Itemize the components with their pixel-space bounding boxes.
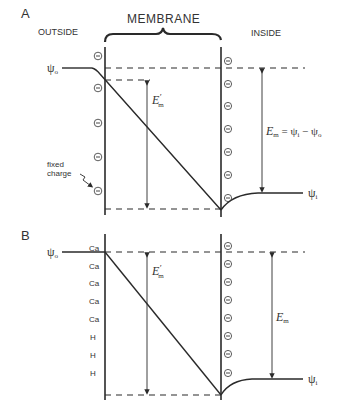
psi-o-label-b: ψo — [47, 245, 59, 260]
panel-a-letter: A — [21, 6, 30, 21]
ion-label: Ca — [89, 315, 100, 324]
ion-label: Ca — [89, 297, 100, 306]
ion-label: H — [90, 351, 96, 360]
fixed-charge-label-line2: charge — [47, 169, 72, 178]
psi-i-label-b: ψi — [308, 372, 318, 387]
panel-a: A OUTSIDE MEMBRANE INSIDE ψo E′m Em = ψi… — [21, 6, 322, 217]
outer-fixed-charges-a — [94, 52, 102, 195]
fixed-charge-pointer — [80, 174, 91, 186]
fixed-charge-label-line1: fixed — [47, 160, 64, 169]
membrane-brace — [105, 28, 221, 42]
ion-label: H — [90, 333, 96, 342]
inner-fixed-charges-a — [224, 57, 231, 201]
psi-i-label-a: ψi — [308, 186, 318, 201]
ion-label: H — [90, 369, 96, 378]
panel-b-letter: B — [21, 228, 30, 243]
em-label-b: Em — [275, 310, 289, 325]
psi-i-curve-b — [221, 379, 303, 395]
outside-label: OUTSIDE — [38, 27, 78, 37]
em-prime-label-b: E′m — [151, 263, 164, 280]
em-equation: Em = ψi − ψo — [265, 124, 322, 139]
inside-label: INSIDE — [251, 28, 281, 38]
inner-fixed-charges-b — [224, 242, 231, 376]
ion-label: Ca — [89, 244, 100, 253]
em-prime-label-a: E′m — [151, 92, 164, 109]
ion-label: Ca — [89, 262, 100, 271]
panel-b: B ψo E′m Em ψi Ca Ca Ca Ca Ca H H H — [21, 228, 318, 400]
psi-i-curve-a — [221, 193, 303, 210]
potential-profile-a — [92, 68, 221, 210]
ion-label: Ca — [89, 279, 100, 288]
outer-ions-b: Ca Ca Ca Ca Ca H H H — [89, 244, 100, 378]
psi-o-label: ψo — [47, 61, 59, 76]
membrane-label: MEMBRANE — [127, 12, 200, 26]
membrane-potential-diagram: A OUTSIDE MEMBRANE INSIDE ψo E′m Em = ψi… — [0, 0, 339, 407]
